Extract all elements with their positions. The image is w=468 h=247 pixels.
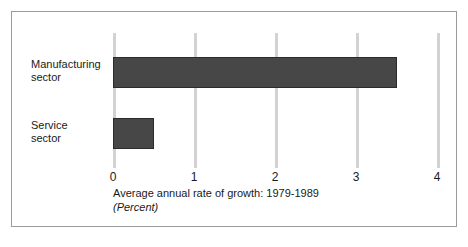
bar-service-sector — [113, 118, 154, 149]
gridline-3 — [356, 33, 359, 168]
x-axis-unit-text: (Percent) — [113, 200, 319, 214]
x-axis-caption-text: Average annual rate of growth: 1979-1989 — [113, 187, 319, 199]
gridline-2 — [275, 33, 278, 168]
bar-manufacturing-sector — [113, 57, 397, 88]
x-tick-label-2: 2 — [260, 170, 290, 184]
x-tick-label-0: 0 — [98, 170, 128, 184]
gridline-4 — [437, 33, 440, 168]
gridline-1 — [194, 33, 197, 168]
x-tick-label-3: 3 — [341, 170, 371, 184]
category-label-manufacturing-sector: Manufacturing sector — [31, 58, 111, 84]
category-label-line-2: sector — [31, 132, 111, 145]
figure-container: Manufacturing sector Service sector 0 1 … — [0, 0, 468, 247]
category-label-line-1: Service — [31, 119, 111, 132]
x-axis-caption: Average annual rate of growth: 1979-1989… — [113, 186, 319, 214]
category-label-line-1: Manufacturing — [31, 58, 111, 71]
category-label-service-sector: Service sector — [31, 119, 111, 145]
category-label-line-2: sector — [31, 71, 111, 84]
x-tick-label-4: 4 — [422, 170, 452, 184]
plot-area: Manufacturing sector Service sector 0 1 … — [0, 0, 468, 247]
x-tick-label-1: 1 — [179, 170, 209, 184]
